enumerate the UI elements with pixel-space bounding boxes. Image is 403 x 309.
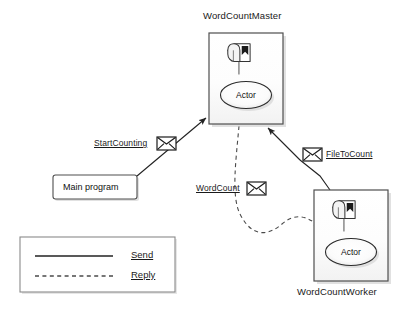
envelope-icon-start-counting <box>157 137 176 150</box>
legend-label-send: Send <box>131 249 153 260</box>
main-program-label: Main program <box>63 182 119 192</box>
message-label-start-counting: StartCounting <box>94 138 147 148</box>
diagram-canvas: Actor Actor <box>0 0 403 309</box>
legend-label-reply: Reply <box>131 269 155 280</box>
actor-label-master: Actor <box>236 90 256 100</box>
envelope-icon-word-count <box>247 182 266 195</box>
message-label-word-count: WordCount <box>196 183 240 193</box>
envelope-icon-file-to-count <box>303 148 322 161</box>
actor-label-worker: Actor <box>341 247 361 257</box>
connector-word-count <box>235 126 321 233</box>
legend-box <box>20 237 177 294</box>
node-title-wordcountworker: WordCountWorker <box>297 286 377 297</box>
node-title-wordcountmaster: WordCountMaster <box>203 10 281 21</box>
message-label-file-to-count: FileToCount <box>326 149 372 159</box>
